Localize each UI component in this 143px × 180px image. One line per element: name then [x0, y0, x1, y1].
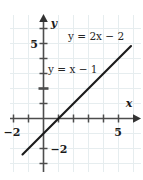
equation-label-lower: y = x − 1	[47, 63, 97, 75]
coordinate-plane-plot: x y −2 5 5 −2 y = 2x − 2 y = x − 1	[0, 0, 143, 180]
graph-figure: x y −2 5 5 −2 y = 2x − 2 y = x − 1	[0, 0, 143, 180]
x-tick-label-neg2: −2	[4, 126, 21, 139]
y-tick-label-5: 5	[30, 38, 38, 51]
x-tick-label-5: 5	[114, 126, 122, 139]
figure-background	[0, 0, 143, 180]
y-tick-label-neg2: −2	[51, 143, 68, 156]
equation-label-upper: y = 2x − 2	[67, 30, 124, 42]
x-axis-label: x	[125, 97, 133, 110]
